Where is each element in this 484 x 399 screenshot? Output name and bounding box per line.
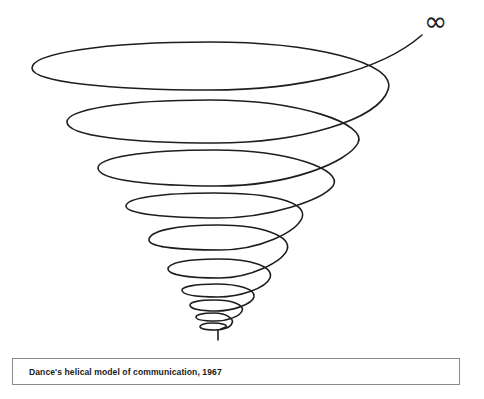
caption-text: Dance's helical model of communication, … <box>29 366 222 377</box>
caption-box: Dance's helical model of communication, … <box>12 358 460 385</box>
helical-model-figure: ∞ <box>0 0 484 350</box>
infinity-symbol: ∞ <box>424 8 447 36</box>
helix-spiral <box>0 0 484 350</box>
helix-path <box>32 35 422 340</box>
